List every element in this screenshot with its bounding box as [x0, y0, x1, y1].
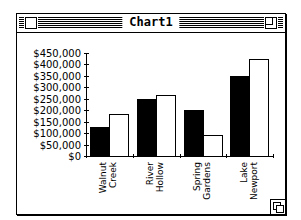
window-title: Chart1: [122, 15, 179, 30]
y-tick: [84, 122, 89, 123]
y-tick: [84, 87, 89, 88]
y-tick: [84, 145, 89, 146]
chart-window: Chart1 $0$50,000$100,000$150,000$200,000…: [16, 13, 286, 215]
x-tick: [86, 154, 87, 158]
y-tick: [84, 53, 89, 54]
y-axis: [86, 53, 87, 157]
close-box-icon[interactable]: [25, 17, 37, 29]
y-tick: [84, 110, 89, 111]
zoom-box-icon[interactable]: [265, 17, 277, 29]
plot-area: WalnutCreekRiverHollowSpringGardensLakeN…: [17, 33, 285, 213]
x-tick: [273, 154, 274, 158]
bar-river-hollow-series-2: [156, 95, 176, 157]
x-category-label: WalnutCreek: [98, 162, 118, 206]
title-bar[interactable]: Chart1: [17, 14, 285, 33]
y-tick: [84, 64, 89, 65]
x-category-label-line: Spring: [192, 162, 202, 206]
x-category-label: SpringGardens: [192, 162, 212, 206]
bar-walnut-creek-series-2: [109, 114, 129, 157]
x-tick: [133, 154, 134, 158]
x-category-label-line: Lake: [239, 162, 249, 206]
x-tick: [226, 154, 227, 158]
x-category-label-line: Creek: [108, 162, 118, 206]
x-category-label-line: Gardens: [202, 162, 212, 206]
x-tick: [180, 154, 181, 158]
x-category-label-line: Hollow: [155, 162, 165, 206]
bar-river-hollow-series-1: [137, 99, 157, 157]
y-tick: [84, 76, 89, 77]
bar-lake-newport-series-1: [230, 76, 250, 157]
bar-lake-newport-series-2: [249, 59, 269, 157]
x-category-label-line: Newport: [249, 162, 259, 206]
bar-spring-gardens-series-1: [184, 110, 204, 157]
x-category-label: RiverHollow: [145, 162, 165, 206]
y-tick: [84, 133, 89, 134]
bar-spring-gardens-series-2: [203, 135, 223, 157]
x-category-label-line: Walnut: [98, 162, 108, 206]
bar-walnut-creek-series-1: [90, 127, 110, 157]
x-category-label-line: River: [145, 162, 155, 206]
chart-area: $0$50,000$100,000$150,000$200,000$250,00…: [17, 33, 285, 214]
x-category-label: LakeNewport: [239, 162, 259, 206]
y-tick: [84, 99, 89, 100]
grow-box-icon[interactable]: [270, 199, 285, 214]
